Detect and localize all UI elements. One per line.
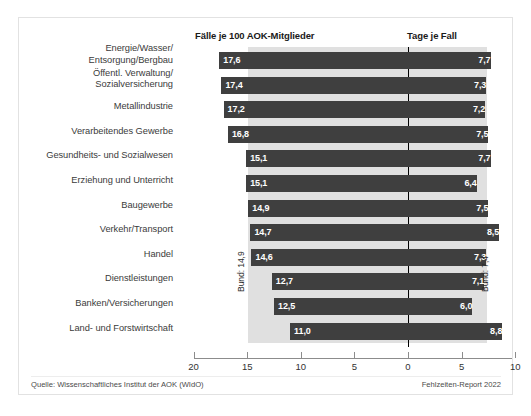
bar-value-faelle: 14,7 xyxy=(250,224,288,241)
category-label: Verkehr/Transport xyxy=(0,224,173,236)
bar-row: Dienstleistungen12,77,1 xyxy=(19,269,514,296)
x-axis-tick-mark xyxy=(247,352,248,358)
x-axis-tick-label: 10 xyxy=(296,361,307,372)
x-axis-tick-mark xyxy=(301,352,302,358)
bar-value-faelle: 17,6 xyxy=(219,52,257,69)
x-axis-tick-mark xyxy=(462,352,463,358)
x-axis-tick-mark xyxy=(354,352,355,358)
bar-row: Metallindustrie17,27,2 xyxy=(19,97,514,124)
bar-value-tage: 8,5 xyxy=(465,224,503,241)
bar-value-tage: 6,4 xyxy=(443,175,481,192)
category-label: Dienstleistungen xyxy=(0,273,173,285)
report-note: Fehlzeiten-Report 2022 xyxy=(422,380,501,389)
x-axis-tick-label: 5 xyxy=(459,361,464,372)
column-header-faelle: Fälle je 100 AOK-Mitglieder xyxy=(195,30,314,41)
bar-value-faelle: 15,1 xyxy=(246,175,284,192)
footer-divider xyxy=(31,376,501,377)
category-label: Energie/Wasser/Entsorgung/Bergbau xyxy=(0,43,173,66)
chart-figure: Fälle je 100 AOK-Mitglieder Tage je Fall… xyxy=(18,17,513,395)
x-axis-tick-mark xyxy=(515,352,516,358)
bar-row: Land- und Forstwirtschaft11,08,8 xyxy=(19,319,514,346)
bar-value-faelle: 14,6 xyxy=(251,249,289,266)
bar-value-faelle: 16,8 xyxy=(228,126,266,143)
source-note: Quelle: Wissenschaftliches Institut der … xyxy=(31,380,204,389)
bar-row: Baugewerbe14,97,5 xyxy=(19,196,514,223)
x-axis-tick-label: 10 xyxy=(510,361,521,372)
bar-row: Erziehung und Unterricht15,16,4 xyxy=(19,171,514,198)
bar-value-tage: 7,5 xyxy=(454,126,492,143)
x-axis-tick-label: 0 xyxy=(405,361,410,372)
bar-value-tage: 7,5 xyxy=(454,200,492,217)
plot-area: Energie/Wasser/Entsorgung/Bergbau17,67,7… xyxy=(19,47,514,347)
category-label: Gesundheits- und Sozialwesen xyxy=(0,150,173,162)
category-label: Handel xyxy=(0,249,173,261)
bar-row: Banken/Versicherungen12,56,0 xyxy=(19,294,514,321)
bar-row: Handel14,67,3 xyxy=(19,245,514,272)
bar-value-tage: 6,0 xyxy=(438,298,476,315)
category-label: Land- und Forstwirtschaft xyxy=(0,323,173,335)
bar-value-tage: 7,7 xyxy=(457,52,495,69)
x-axis-line xyxy=(194,358,512,359)
column-header-tage: Tage je Fall xyxy=(407,30,457,41)
category-label: Banken/Versicherungen xyxy=(0,298,173,310)
bar-row: Öffentl. Verwaltung/Sozialversicherung17… xyxy=(19,73,514,100)
bar-value-faelle: 17,2 xyxy=(224,101,262,118)
bar-value-tage: 7,3 xyxy=(452,77,490,94)
category-label: Verarbeitendes Gewerbe xyxy=(0,126,173,138)
category-label: Baugewerbe xyxy=(0,200,173,212)
x-axis-tick-label: 20 xyxy=(188,361,199,372)
bar-value-faelle: 14,9 xyxy=(248,200,286,217)
bar-value-tage: 8,8 xyxy=(468,323,506,340)
bar-value-tage: 7,2 xyxy=(451,101,489,118)
category-label: Erziehung und Unterricht xyxy=(0,175,173,187)
bar-row: Verkehr/Transport14,78,5 xyxy=(19,220,514,247)
bar-value-tage: 7,7 xyxy=(457,150,495,167)
category-label: Öffentl. Verwaltung/Sozialversicherung xyxy=(0,68,173,91)
bar-value-faelle: 11,0 xyxy=(290,323,328,340)
bar-row: Gesundheits- und Sozialwesen15,17,7 xyxy=(19,146,514,173)
bar-value-faelle: 12,5 xyxy=(274,298,312,315)
category-label: Metallindustrie xyxy=(0,101,173,113)
bar-row: Verarbeitendes Gewerbe16,87,5 xyxy=(19,122,514,149)
bar-value-faelle: 15,1 xyxy=(246,150,284,167)
bar-value-faelle: 12,7 xyxy=(272,273,310,290)
x-axis-tick-mark xyxy=(194,352,195,358)
x-axis-tick-mark xyxy=(408,352,409,358)
bund-reference-label-right: Bund: 7,4 xyxy=(480,256,490,292)
x-axis-tick-label: 15 xyxy=(242,361,253,372)
bar-value-faelle: 17,4 xyxy=(221,77,259,94)
x-axis-tick-label: 5 xyxy=(352,361,357,372)
bund-reference-label-left: Bund: 14,9 xyxy=(236,251,246,292)
